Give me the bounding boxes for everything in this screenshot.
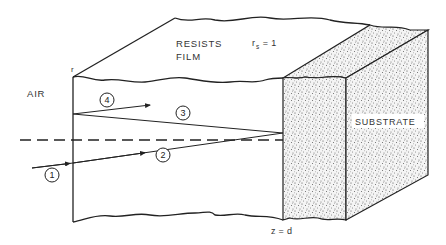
svg-text:2: 2 — [160, 150, 165, 160]
film-label-line2: FILM — [176, 51, 201, 62]
diagram-canvas: 1 2 3 4 AIR RESISTS FILM SUBSTRATE r r s… — [0, 0, 446, 245]
ray-label-1: 1 — [45, 168, 59, 182]
substrate-front-face — [283, 77, 346, 220]
film-back-wavy-edge — [175, 17, 370, 25]
film-label-line1: RESISTS — [176, 38, 222, 49]
ray-2-arrow-icon — [73, 153, 145, 163]
substrate-label: SUBSTRATE — [355, 117, 416, 127]
svg-text:= 1: = 1 — [260, 38, 276, 48]
ray-4-arrow-icon — [73, 105, 150, 114]
svg-text:3: 3 — [180, 108, 185, 118]
svg-text:1: 1 — [49, 170, 54, 180]
svg-text:4: 4 — [104, 95, 109, 105]
ray-label-3: 3 — [176, 106, 190, 120]
ray-label-4: 4 — [100, 93, 114, 107]
ray-label-2: 2 — [156, 148, 170, 162]
air-label: AIR — [27, 88, 45, 99]
z-equals-d-label: z = d — [271, 226, 292, 236]
film-front-wavy-edge — [73, 76, 283, 82]
r-label: r — [71, 65, 74, 74]
ray-1-arrow-icon — [32, 163, 70, 168]
film-bottom-wavy-edge — [73, 212, 283, 222]
film-top-diagonal — [73, 18, 175, 77]
rs-annotation: r s = 1 — [252, 38, 276, 50]
